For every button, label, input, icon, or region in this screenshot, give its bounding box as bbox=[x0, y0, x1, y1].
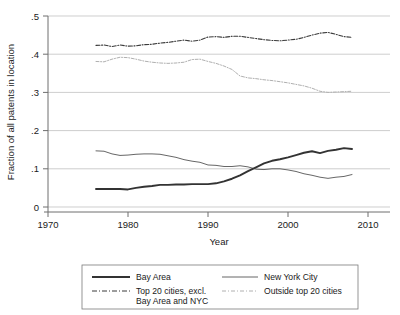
x-tick-label-1980: 1980 bbox=[117, 219, 138, 230]
x-tick-label-1990: 1990 bbox=[197, 219, 218, 230]
x-tick-label-1970: 1970 bbox=[37, 219, 58, 230]
legend: Bay Area New York City Top 20 cities, ex… bbox=[82, 265, 358, 309]
legend-label-bay-area: Bay Area bbox=[136, 272, 171, 282]
y-tick-label-0.3: .3 bbox=[31, 87, 39, 98]
x-axis-title: Year bbox=[209, 236, 228, 247]
x-tick-label-2010: 2010 bbox=[357, 219, 378, 230]
y-tick-label-0.0: 0 bbox=[34, 202, 39, 213]
legend-label-outside-top-20-cities: Outside top 20 cities bbox=[264, 286, 342, 296]
legend-label-new-york-city: New York City bbox=[264, 272, 318, 282]
y-tick-label-0.1: .1 bbox=[31, 163, 39, 174]
y-tick-label-0.2: .2 bbox=[31, 125, 39, 136]
legend-label-top-20-cities-line2: Bay Area and NYC bbox=[136, 296, 208, 306]
y-tick-label-0.4: .4 bbox=[31, 49, 39, 60]
legend-label-top-20-cities: Top 20 cities, excl. bbox=[136, 286, 206, 296]
y-tick-label-0.5: .5 bbox=[31, 11, 39, 22]
y-axis-title: Fraction of all patents in location bbox=[5, 44, 16, 180]
patents-location-chart: .5 .4 .3 .2 .1 0 Fraction of all patents… bbox=[0, 0, 400, 315]
x-tick-label-2000: 2000 bbox=[277, 219, 298, 230]
